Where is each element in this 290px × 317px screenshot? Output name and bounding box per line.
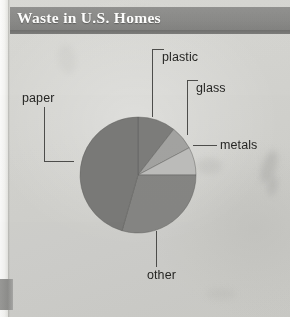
pie-slice-group (80, 117, 196, 233)
leader-line-paper-horizontal (44, 161, 74, 162)
waste-figure: Waste in U.S. Homes plastic glass metals… (0, 0, 290, 317)
pie-label-metals: metals (220, 138, 257, 152)
pie-label-paper: paper (22, 91, 54, 105)
leader-line-paper-vertical (44, 107, 45, 162)
pie-label-glass: glass (196, 81, 226, 95)
leader-line-glass-vertical (187, 80, 188, 135)
pie-label-plastic: plastic (162, 50, 198, 64)
pie-label-other: other (147, 268, 176, 282)
leader-line-other (156, 231, 157, 267)
leader-line-plastic-vertical (152, 49, 153, 117)
leader-line-metals (193, 145, 217, 146)
